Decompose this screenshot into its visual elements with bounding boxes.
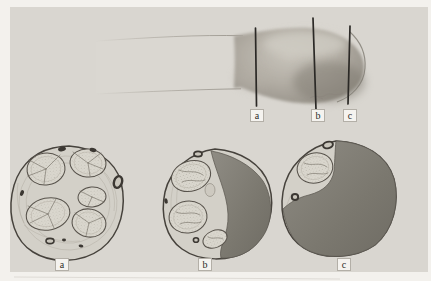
section-label-top-c: c: [343, 109, 357, 122]
section-label-bottom-b: b: [198, 258, 212, 271]
section-line-a: [256, 28, 257, 106]
section-label-top-b: b: [311, 109, 325, 122]
cross-section-b: [163, 149, 271, 259]
section-label-bottom-c: c: [337, 258, 351, 271]
figure-page: a b c a b c: [0, 0, 431, 281]
section-label-bottom-a: a: [55, 258, 69, 271]
cross-section-a: [11, 146, 124, 260]
specimen-and-sections-illustration: [0, 0, 431, 281]
cross-section-c: [282, 141, 396, 257]
section-label-top-a: a: [250, 109, 264, 122]
scan-artifact: [14, 277, 340, 279]
longitudinal-specimen: [96, 18, 365, 110]
